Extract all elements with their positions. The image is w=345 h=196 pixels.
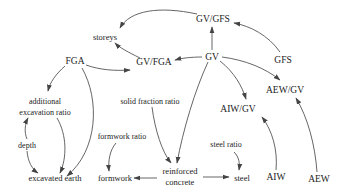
edge-fga-gvfga xyxy=(86,65,130,70)
edge-gv-aewgv xyxy=(222,57,280,80)
node-fga: FGA xyxy=(65,56,84,66)
node-additional-excavation-ratio-line2: excavation ratio xyxy=(19,108,70,117)
node-aiw: AIW xyxy=(267,172,286,182)
edge-steelratio-steel xyxy=(234,152,239,170)
node-aew-gv: AEW/GV xyxy=(266,85,304,95)
node-steel-ratio: steel ratio xyxy=(210,140,241,149)
edge-aiw-aiwgv xyxy=(262,117,276,170)
node-formwork: formwork xyxy=(98,173,133,183)
nodes: GV/GFS storeys FGA GV/FGA GV GFS AEW/GV … xyxy=(18,14,330,187)
edge-gv-rc xyxy=(177,62,208,163)
node-gv: GV xyxy=(205,52,219,62)
node-gv-fga: GV/FGA xyxy=(136,57,172,67)
node-gv-gfs: GV/GFS xyxy=(196,14,230,24)
edge-solid-rc xyxy=(152,107,171,163)
edge-gfs-gvgfs xyxy=(234,23,280,52)
edge-aew-aewgv xyxy=(296,98,317,172)
diagram-canvas: GV/GFS storeys FGA GV/FGA GV GFS AEW/GV … xyxy=(0,0,345,196)
node-storeys: storeys xyxy=(93,32,117,42)
node-depth: depth xyxy=(18,141,36,150)
edge-depth-additional xyxy=(25,118,28,139)
node-solid-fraction-ratio: solid fraction ratio xyxy=(120,97,179,106)
node-steel: steel xyxy=(234,173,250,183)
node-reinforced-concrete-line1: reinforced xyxy=(163,166,199,176)
node-excavated-earth: excavated earth xyxy=(28,173,82,183)
node-aew: AEW xyxy=(308,174,330,184)
edge-gvfga-storeys xyxy=(115,43,140,58)
edge-gvgfs-storeys xyxy=(120,10,197,28)
edge-gv-gvfga xyxy=(175,57,202,60)
edge-gv-aiwgv xyxy=(220,61,246,99)
edge-additional-excavated xyxy=(57,118,65,173)
causal-diagram: GV/GFS storeys FGA GV/FGA GV GFS AEW/GV … xyxy=(0,0,345,196)
edge-fga-additional xyxy=(48,66,65,91)
edge-depth-excavated xyxy=(27,151,38,173)
node-aiw-gv: AIW/GV xyxy=(220,104,255,114)
node-reinforced-concrete-line2: concrete xyxy=(166,177,195,187)
edge-formworkratio-formwork xyxy=(109,143,116,171)
node-formwork-ratio: formwork ratio xyxy=(98,132,147,141)
node-gfs: GFS xyxy=(274,55,291,65)
node-additional-excavation-ratio-line1: additional xyxy=(29,97,62,106)
edge-fga-excavated xyxy=(67,68,93,176)
